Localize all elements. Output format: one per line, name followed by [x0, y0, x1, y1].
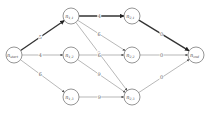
edge-weight-label: 0 [160, 52, 163, 58]
edge-line [20, 60, 64, 93]
edge-line [78, 20, 126, 50]
node-start: nstart [6, 47, 22, 63]
edge-n11-n21: 4 [79, 13, 124, 19]
edge-start-n13: 6 [20, 60, 64, 93]
edge-line [139, 59, 190, 92]
edge-line [76, 22, 127, 90]
edge-weight-label: 4 [39, 52, 42, 58]
edge-weight-label: 6 [98, 52, 101, 58]
node-end: nend [188, 47, 204, 63]
edge-weight-label: 4 [98, 13, 101, 19]
edge-line [21, 21, 65, 51]
edge-n13-n23: 9 [79, 94, 124, 100]
edge-n23-end: 0 [139, 59, 190, 92]
nodes-group: nstartn1,1n1,2n1,3n2,1n2,2n2,3nend [6, 8, 204, 105]
edge-weight-label: 9 [98, 94, 101, 100]
edge-n12-n23: 9 [78, 60, 126, 93]
edge-line [78, 60, 126, 93]
edge-n22-end: 0 [140, 52, 188, 58]
edge-weight-label: 5 [39, 34, 42, 40]
edge-weight-label: 6 [39, 71, 42, 77]
edge-weight-label: 6 [98, 31, 101, 37]
edge-n11-n22: 6 [78, 20, 126, 50]
node-n11: n1,1 [63, 8, 79, 24]
node-n23: n2,3 [124, 89, 140, 105]
node-n13: n1,3 [63, 89, 79, 105]
edge-n21-end: 0 [139, 20, 189, 51]
node-n21: n2,1 [124, 8, 140, 24]
edge-weight-label: 0 [160, 74, 163, 80]
layered-graph-diagram: 546469699000 nstartn1,1n1,2n1,3n2,1n2,2n… [0, 0, 213, 114]
edge-weight-label: 9 [98, 71, 101, 77]
edges-group: 546469699000 [20, 13, 189, 100]
edge-weight-label: 0 [160, 31, 163, 37]
edge-n11-n23: 9 [76, 22, 127, 90]
edge-start-n11: 5 [21, 21, 65, 51]
edge-line [139, 20, 189, 51]
edge-start-n12: 4 [22, 52, 63, 58]
node-n12: n1,2 [63, 47, 79, 63]
node-n22: n2,2 [124, 47, 140, 63]
